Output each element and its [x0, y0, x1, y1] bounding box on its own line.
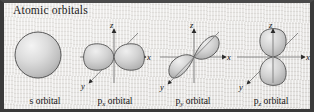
py-lobe-lower	[169, 55, 194, 78]
axis-y-label: y	[238, 82, 243, 92]
orbital-diagram-pz: z x y	[235, 17, 313, 91]
s-orbital-sphere	[15, 32, 61, 78]
orbital-diagram-s	[6, 17, 84, 91]
page-title: Atomic orbitals	[13, 4, 88, 16]
px-lobe-left	[84, 44, 114, 70]
atomic-orbitals-figure: Atomic orbitals	[0, 0, 314, 112]
axis-x-label: x	[305, 52, 310, 62]
caption-px-orbital: px orbital	[72, 96, 158, 108]
orbital-diagram-py: z x y	[156, 17, 234, 91]
caption-py-suffix: orbital	[183, 96, 210, 106]
caption-py-orbital: py orbital	[150, 96, 236, 108]
py-lobe-upper	[194, 36, 219, 59]
px-lobe-right	[114, 44, 144, 70]
orbital-diagram-px: z x y	[76, 17, 154, 91]
caption-s-suffix: orbital	[33, 96, 60, 106]
axis-y-label: y	[159, 82, 164, 92]
axis-x-label: x	[146, 52, 151, 62]
caption-px-suffix: orbital	[105, 96, 132, 106]
axis-z-label: z	[189, 20, 194, 30]
axis-z-label: z	[109, 20, 114, 30]
axis-x-label: x	[226, 52, 231, 62]
caption-pz-suffix: orbital	[261, 96, 288, 106]
axis-y-label: y	[80, 81, 85, 91]
axis-z-label: z	[268, 20, 273, 30]
figure-inner: Atomic orbitals	[4, 3, 310, 109]
caption-pz-orbital: pz orbital	[228, 96, 314, 108]
